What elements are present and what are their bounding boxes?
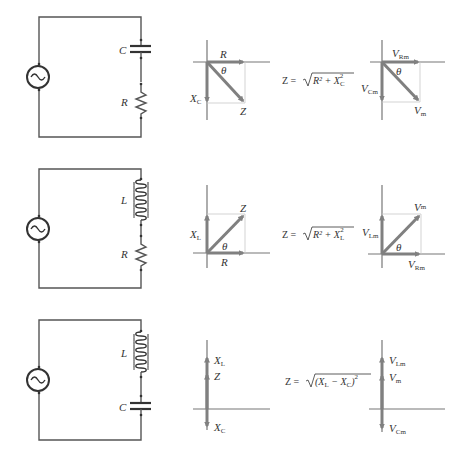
- svg-text:XL: XL: [213, 354, 225, 368]
- svg-text:Z: Z: [214, 370, 221, 382]
- svg-text:θ: θ: [396, 65, 402, 77]
- impedance-phasor-lc: XL Z XC: [193, 340, 270, 435]
- impedance-phasor-rl: Z XL θ R: [189, 185, 270, 268]
- formula-lc: Z = (XL − XC)2: [285, 373, 371, 389]
- voltage-phasor-rl: Vm VLm θ VRm: [362, 185, 445, 272]
- formula-rc: Z = R² + XC2: [282, 72, 354, 88]
- resistor-icon: [136, 235, 146, 272]
- circuit-lc: L C: [27, 320, 151, 440]
- svg-text:Z: Z: [240, 202, 247, 214]
- wire-top: [39, 17, 141, 66]
- z-label: Z: [240, 105, 247, 117]
- svg-text:Z =: Z =: [285, 376, 300, 387]
- vrm-label: VRm: [392, 47, 409, 61]
- circuit-rc: C R: [27, 17, 151, 137]
- inductor-label: L: [120, 194, 127, 206]
- voltage-phasor-rc: VRm θ VCm Vm: [361, 40, 445, 120]
- theta-label: θ: [221, 64, 227, 76]
- inductor-icon: [134, 178, 148, 236]
- resistor-label: R: [120, 248, 128, 260]
- svg-text:Z =: Z =: [282, 229, 297, 240]
- vm-label: Vm: [414, 104, 427, 118]
- impedance-phasor-rc: R θ XC Z: [189, 40, 270, 120]
- svg-text:Vm: Vm: [414, 201, 427, 213]
- resistor-icon: [136, 83, 146, 120]
- svg-text:θ: θ: [396, 241, 402, 253]
- vcm-label: VCm: [361, 82, 378, 96]
- inductor-icon: [134, 330, 148, 403]
- svg-text:VLm: VLm: [389, 354, 406, 368]
- capacitor-icon: [130, 39, 151, 82]
- svg-text:R² + XC2: R² + XC2: [312, 72, 345, 88]
- svg-text:VLm: VLm: [362, 226, 379, 240]
- ac-source-icon: [27, 215, 49, 244]
- svg-text:(XL − XC)2: (XL − XC)2: [315, 373, 359, 389]
- svg-text:XL: XL: [189, 228, 201, 242]
- resistor-label: R: [120, 96, 128, 108]
- capacitor-label: C: [119, 44, 127, 56]
- circuit-rl: L R: [27, 169, 148, 288]
- svg-text:R: R: [220, 256, 228, 268]
- xc-label: XC: [189, 92, 202, 106]
- voltage-phasor-lc: VLm Vm VCm: [369, 340, 445, 436]
- svg-text:θ: θ: [222, 240, 228, 252]
- formula-text: Z =: [282, 75, 297, 86]
- ac-source-icon: [27, 366, 49, 395]
- svg-text:C: C: [119, 401, 127, 413]
- svg-text:VRm: VRm: [408, 258, 425, 272]
- ac-circuits-diagram: C R R θ XC Z Z = R² + XC2 VRm θ VCm Vm: [0, 0, 460, 465]
- formula-rl: Z = R² + XL2: [282, 226, 354, 242]
- ac-source-icon: [27, 63, 49, 92]
- svg-text:R² + XL2: R² + XL2: [312, 226, 344, 242]
- svg-text:Vm: Vm: [389, 371, 402, 385]
- svg-text:VCm: VCm: [389, 422, 406, 436]
- r-label: R: [219, 48, 227, 60]
- svg-text:XC: XC: [213, 421, 226, 435]
- svg-text:L: L: [120, 347, 127, 359]
